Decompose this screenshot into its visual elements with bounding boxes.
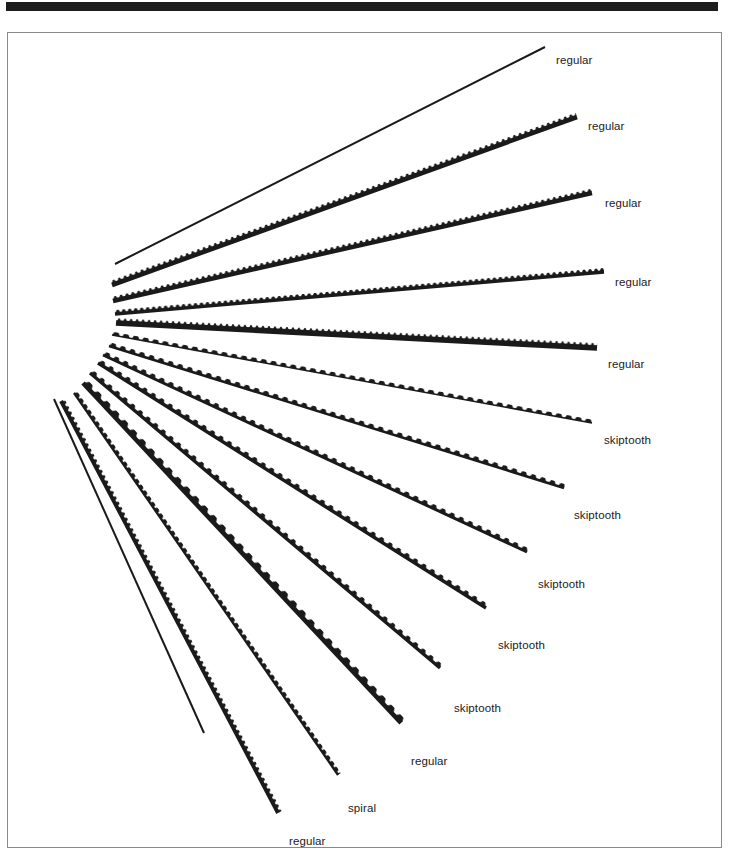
saw-blade — [73, 391, 341, 776]
saw-blade — [115, 46, 546, 265]
blade-label: skiptooth — [538, 579, 585, 591]
saw-blade — [112, 189, 592, 303]
blade-teeth — [110, 113, 576, 284]
blade-label: regular — [289, 836, 326, 848]
page-root: regularregularregularregularregularskipt… — [0, 0, 730, 860]
blade-label: skiptooth — [454, 703, 501, 715]
blade-body — [81, 381, 402, 724]
blade-teeth — [103, 351, 528, 551]
blade-teeth — [115, 268, 604, 313]
figure-frame: regularregularregularregularregularskipt… — [7, 32, 722, 848]
top-black-bar — [6, 2, 718, 11]
blade-body — [113, 191, 593, 303]
blades-group — [53, 46, 604, 814]
saw-blade — [89, 370, 443, 670]
blade-label: regular — [588, 121, 625, 133]
saw-blade — [115, 268, 604, 316]
blade-body — [111, 115, 578, 287]
blade-teeth — [91, 370, 443, 668]
blade-teeth — [84, 379, 405, 722]
blade-teeth — [62, 399, 282, 812]
saw-blade — [81, 379, 405, 724]
blade-teeth — [98, 359, 488, 607]
blade-label: skiptooth — [604, 435, 651, 447]
blade-teeth — [112, 189, 592, 300]
blade-label: regular — [556, 55, 593, 67]
saw-blade — [59, 399, 281, 814]
blade-label: regular — [608, 359, 645, 371]
blade-label: regular — [615, 277, 652, 289]
saw-blade — [110, 113, 577, 287]
blade-label: skiptooth — [498, 640, 545, 652]
saw-blade — [97, 359, 488, 609]
blade-label: skiptooth — [574, 510, 621, 522]
saw-blade — [109, 342, 566, 489]
blade-body — [59, 400, 279, 814]
blade-body — [115, 46, 546, 265]
blade-body — [73, 392, 339, 775]
blade-teeth — [116, 318, 597, 346]
blade-body — [89, 372, 441, 670]
blade-label: regular — [411, 756, 448, 768]
blade-label: regular — [605, 198, 642, 210]
blade-label: spiral — [348, 803, 376, 815]
